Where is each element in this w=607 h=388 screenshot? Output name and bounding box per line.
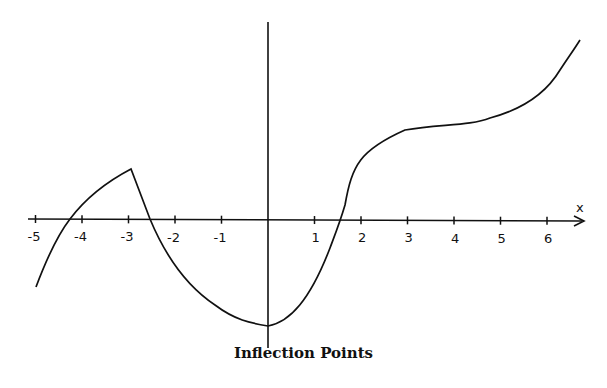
chart: -5-4-3-2-1123456 x: [0, 0, 607, 388]
x-tick-label: 1: [312, 230, 320, 245]
x-tick-label: -2: [167, 230, 180, 245]
function-curve: [36, 40, 580, 326]
x-tick-label: 6: [544, 231, 552, 246]
x-tick-label: -1: [214, 230, 227, 245]
x-axis: [28, 219, 582, 221]
x-axis-label: x: [576, 200, 584, 215]
x-tick-label: 4: [451, 231, 459, 246]
chart-title: Inflection Points: [0, 344, 607, 362]
x-tick-label: 3: [405, 230, 413, 245]
x-tick-label: 5: [498, 231, 506, 246]
x-tick-label: -3: [121, 229, 134, 244]
x-tick-label: 2: [358, 230, 366, 245]
x-tick-label: -4: [74, 229, 87, 244]
x-tick-label: -5: [28, 229, 41, 244]
